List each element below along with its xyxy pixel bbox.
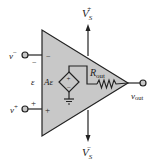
noninverting-inner-sign: +	[45, 105, 50, 115]
op-amp-diagram: VS+ VS− v− − − v+ + + ε + −	[0, 0, 155, 166]
inverting-inner-sign: −	[46, 52, 51, 61]
noninverting-outer-sign: +	[31, 98, 36, 108]
arrow-up-icon	[86, 24, 91, 31]
arrow-down-icon	[86, 135, 91, 142]
output-terminal	[128, 80, 146, 86]
noninverting-input-label: v+	[10, 103, 18, 115]
positive-supply-lead	[86, 24, 91, 56]
positive-supply-label: VS+	[82, 5, 93, 22]
terminal-circle-icon	[140, 80, 146, 86]
gain-label: Aε	[43, 77, 53, 87]
inverting-input-label: v−	[9, 49, 17, 61]
source-polarity-top: +	[67, 75, 71, 83]
negative-supply-label: VS−	[82, 144, 93, 161]
output-label: vout	[131, 91, 144, 101]
inverting-outer-sign: −	[32, 58, 37, 67]
differential-voltage-label: ε	[31, 77, 35, 87]
terminal-circle-icon	[22, 52, 28, 58]
source-polarity-bottom: −	[67, 84, 71, 92]
negative-supply-lead	[86, 110, 91, 142]
terminal-circle-icon	[22, 106, 28, 112]
